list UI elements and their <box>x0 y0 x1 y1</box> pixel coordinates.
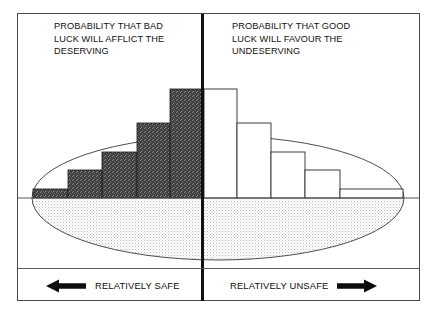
bar-left-5 <box>170 89 202 198</box>
bar-left-3 <box>102 152 137 198</box>
bars-right-series <box>204 89 403 198</box>
legend-right-label: RELATIVELY UNSAFE <box>230 280 328 291</box>
legend-left-label: RELATIVELY SAFE <box>95 280 180 291</box>
arrow-left-icon <box>46 279 86 293</box>
bar-right-4 <box>305 170 340 198</box>
bar-right-3 <box>271 152 305 198</box>
bars-left-series <box>33 89 202 198</box>
bar-right-2 <box>237 123 271 198</box>
legend-divider <box>201 269 204 301</box>
bar-left-2 <box>68 170 102 198</box>
arrow-right-icon <box>337 279 377 293</box>
bar-right-1 <box>204 89 237 198</box>
legend-top-rule <box>18 268 419 269</box>
bar-left-1 <box>33 189 68 198</box>
caption-left: PROBABILITY THAT BAD LUCK WILL AFFLICT T… <box>54 20 214 58</box>
bar-left-4 <box>137 123 170 198</box>
caption-right: PROBABILITY THAT GOOD LUCK WILL FAVOUR T… <box>232 20 402 58</box>
legend-right: RELATIVELY UNSAFE <box>230 271 377 300</box>
bar-right-5 <box>340 189 403 198</box>
legend-left: RELATIVELY SAFE <box>46 271 180 300</box>
legend-strip: RELATIVELY SAFE RELATIVELY UNSAFE <box>18 271 419 300</box>
probability-diagram: PROBABILITY THAT BAD LUCK WILL AFFLICT T… <box>0 0 435 318</box>
